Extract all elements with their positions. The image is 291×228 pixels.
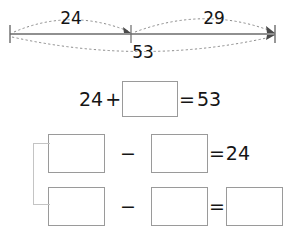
equation-2-minus-operator: −: [119, 144, 137, 163]
equation-row-1: 24 + = 53: [78, 78, 222, 120]
equation-row-3: − =: [48, 185, 283, 227]
equation-1-plus-operator: +: [104, 90, 122, 109]
number-line-label-right: 29: [203, 10, 225, 27]
equation-2-equals-sign: =: [208, 144, 226, 163]
arrowhead-left-24: [123, 27, 131, 33]
equation-3-answer-box-3[interactable]: [226, 187, 283, 226]
equation-3-answer-box-1[interactable]: [48, 187, 105, 226]
equation-2-result: 24: [226, 144, 250, 163]
equation-3-answer-box-2[interactable]: [151, 187, 208, 226]
number-line-label-left: 24: [60, 10, 82, 27]
arrowhead-total-53: [266, 35, 275, 40]
connector-bracket: [33, 143, 50, 205]
number-line-diagram: 24 29 53: [0, 0, 291, 68]
equation-3-equals-sign: =: [208, 197, 226, 216]
worksheet-canvas: 24 29 53 24 + = 53 − = 24 − =: [0, 0, 291, 228]
equation-3-minus-operator: −: [119, 197, 137, 216]
equation-2-answer-box-1[interactable]: [48, 134, 105, 173]
equation-1-operand-a: 24: [78, 90, 104, 109]
number-line-label-total: 53: [132, 44, 154, 61]
equation-2-answer-box-2[interactable]: [151, 134, 208, 173]
equation-1-equals-sign: =: [178, 90, 196, 109]
equation-1-result: 53: [196, 90, 222, 109]
equation-1-answer-box[interactable]: [122, 81, 178, 117]
arrowhead-right-29: [266, 26, 275, 33]
equation-row-2: − = 24: [48, 132, 250, 174]
